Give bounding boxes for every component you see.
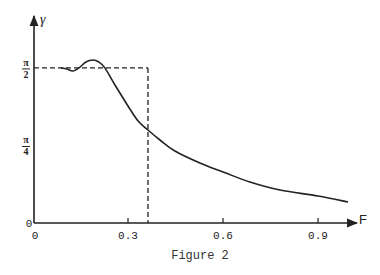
chart: 00.30.60.90π4π2Fγ Figure 2 — [0, 0, 380, 275]
x-tick-label: 0 — [32, 230, 39, 242]
figure-caption: Figure 2 — [171, 249, 229, 263]
labels: 00.30.60.90π4π2Fγ — [22, 12, 367, 242]
gamma-curve — [61, 60, 348, 202]
x-axis-label: F — [359, 212, 367, 227]
y-tick-numerator: π — [23, 134, 29, 145]
y-tick-label: π4 — [22, 134, 30, 157]
y-tick-denominator: 4 — [24, 146, 29, 157]
y-tick-denominator: 2 — [24, 69, 29, 80]
y-tick-numerator: π — [23, 57, 29, 68]
x-tick-label: 0.6 — [213, 230, 233, 242]
y-tick-label: π2 — [22, 57, 30, 80]
reference-lines — [34, 68, 148, 223]
x-tick-label: 0.9 — [308, 230, 328, 242]
x-tick-label: 0.3 — [118, 230, 138, 242]
y-axis-label: γ — [40, 12, 46, 27]
axes — [34, 16, 357, 223]
y-tick-label: 0 — [26, 218, 33, 230]
series — [61, 60, 348, 202]
